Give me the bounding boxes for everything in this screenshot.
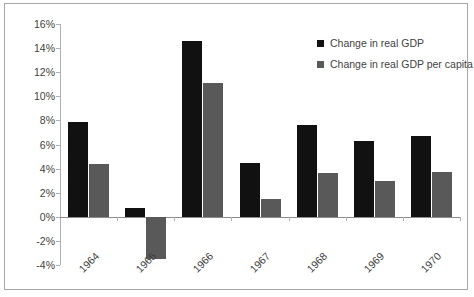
- y-tick-label: -4%: [36, 260, 55, 271]
- y-tick-mark: [56, 241, 60, 242]
- bar: [89, 164, 109, 217]
- y-tick-label: -2%: [36, 236, 55, 247]
- y-tick-label: 2%: [40, 187, 55, 198]
- bar: [261, 199, 281, 217]
- bar: [297, 125, 317, 217]
- bar: [125, 208, 145, 216]
- x-tick-mark: [403, 217, 404, 221]
- y-tick-mark: [56, 145, 60, 146]
- y-tick-mark: [56, 193, 60, 194]
- bar: [240, 163, 260, 217]
- x-tick-label: 1966: [191, 250, 215, 274]
- x-tick-mark: [231, 217, 232, 221]
- y-tick-mark: [56, 72, 60, 73]
- x-tick-mark: [346, 217, 347, 221]
- bar: [318, 173, 338, 216]
- x-tick-mark: [460, 217, 461, 221]
- y-tick-label: 12%: [34, 67, 55, 78]
- x-tick-label: 1965: [134, 250, 158, 274]
- bar: [354, 141, 374, 217]
- y-tick-label: 14%: [34, 43, 55, 54]
- y-tick-label: 8%: [40, 115, 55, 126]
- x-tick-mark: [117, 217, 118, 221]
- chart-legend: Change in real GDPChange in real GDP per…: [317, 37, 473, 79]
- x-tick-label: 1964: [77, 250, 101, 274]
- y-tick-mark: [56, 265, 60, 266]
- x-tick-mark: [174, 217, 175, 221]
- y-tick-label: 4%: [40, 163, 55, 174]
- y-tick-mark: [56, 169, 60, 170]
- y-tick-mark: [56, 120, 60, 121]
- x-tick-label: 1967: [248, 250, 272, 274]
- legend-swatch-icon: [317, 61, 324, 68]
- legend-swatch-icon: [317, 40, 324, 47]
- y-tick-label: 10%: [34, 91, 55, 102]
- zero-baseline: [60, 217, 460, 218]
- bar: [182, 41, 202, 217]
- legend-label: Change in real GDP per capita: [330, 58, 473, 70]
- x-tick-label: 1970: [419, 250, 443, 274]
- y-tick-mark: [56, 96, 60, 97]
- bar: [375, 181, 395, 217]
- y-tick-label: 16%: [34, 19, 55, 30]
- bar: [411, 136, 431, 217]
- chart-frame: 16%14%12%10%8%6%4%2%0%-2%-4% 19641965196…: [4, 3, 468, 290]
- y-tick-mark: [56, 48, 60, 49]
- x-tick-mark: [289, 217, 290, 221]
- bar: [68, 122, 88, 217]
- y-tick-mark: [56, 24, 60, 25]
- bar: [432, 172, 452, 217]
- legend-item[interactable]: Change in real GDP per capita: [317, 58, 473, 70]
- legend-item[interactable]: Change in real GDP: [317, 37, 473, 49]
- bar: [203, 83, 223, 217]
- y-axis-line: [60, 24, 61, 265]
- x-tick-label: 1969: [362, 250, 386, 274]
- y-tick-label: 6%: [40, 139, 55, 150]
- y-tick-label: 0%: [40, 212, 55, 223]
- x-tick-label: 1968: [305, 250, 329, 274]
- legend-label: Change in real GDP: [330, 37, 424, 49]
